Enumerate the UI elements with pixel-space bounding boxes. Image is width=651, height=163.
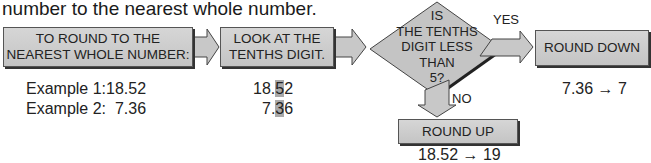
look-text-line1: LOOK AT THE bbox=[233, 31, 320, 47]
decision-line: THAN bbox=[377, 55, 497, 71]
round-up-text: ROUND UP bbox=[422, 124, 494, 140]
round-up-box: ROUND UP bbox=[398, 119, 518, 144]
start-box: TO ROUND TO THE NEAREST WHOLE NUMBER: bbox=[3, 27, 193, 67]
example-1-value: 18.52 bbox=[106, 80, 146, 97]
tenths-digit-highlight: 3 bbox=[275, 100, 284, 117]
decision-line: DIGIT LESS bbox=[377, 39, 497, 55]
round-down-box: ROUND DOWN bbox=[535, 30, 649, 66]
look-text-line2: TENTHS DIGIT. bbox=[229, 47, 325, 63]
example-2: Example 2: 7.36 bbox=[26, 100, 146, 118]
decision-line: 5? bbox=[377, 70, 497, 86]
round-up-result: 18.52 → 19 bbox=[418, 146, 501, 163]
example-2-label: Example 2: bbox=[26, 100, 106, 117]
no-label: NO bbox=[452, 91, 472, 106]
example-1-label: Example 1: bbox=[26, 80, 106, 97]
start-text-line1: TO ROUND TO THE bbox=[36, 31, 160, 47]
decision-line: IS bbox=[377, 8, 497, 24]
example-2-value: 7.36 bbox=[115, 100, 146, 117]
start-text-line2: NEAREST WHOLE NUMBER: bbox=[7, 47, 190, 63]
decision-text: IS THE TENTHS DIGIT LESS THAN 5? bbox=[377, 8, 497, 86]
look-tenths-box: LOOK AT THE TENTHS DIGIT. bbox=[220, 27, 334, 67]
round-down-result: 7.36 → 7 bbox=[562, 80, 627, 98]
decision-line: THE TENTHS bbox=[377, 24, 497, 40]
digits: 6 bbox=[284, 100, 293, 117]
tenths-digit-highlight: 5 bbox=[275, 80, 284, 97]
tenths-example-1: 18.52 bbox=[253, 80, 293, 98]
yes-label: YES bbox=[493, 12, 519, 27]
round-down-text: ROUND DOWN bbox=[544, 40, 640, 56]
tenths-example-2: 7.36 bbox=[262, 100, 293, 118]
digits: 7. bbox=[262, 100, 275, 117]
digits: 18. bbox=[253, 80, 275, 97]
digits: 2 bbox=[284, 80, 293, 97]
example-1: Example 1:18.52 bbox=[26, 80, 146, 98]
